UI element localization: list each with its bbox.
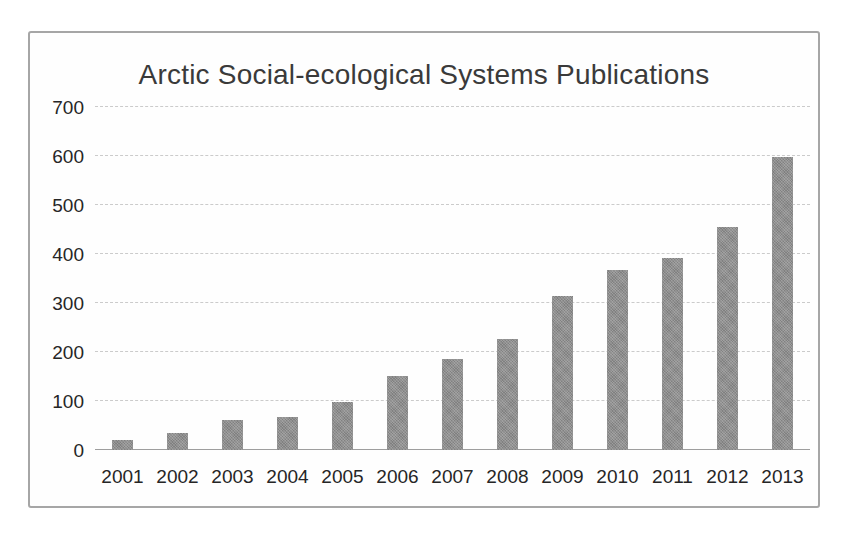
y-tick-label-500: 500 bbox=[30, 196, 84, 215]
x-tick-label-2009: 2009 bbox=[535, 450, 590, 486]
y-tick-label-200: 200 bbox=[30, 343, 84, 362]
x-tick-label-2013: 2013 bbox=[755, 450, 810, 486]
x-tick-label-2002: 2002 bbox=[150, 450, 205, 486]
x-tick-label-2003: 2003 bbox=[205, 450, 260, 486]
bar-cell-2004 bbox=[260, 107, 315, 450]
x-tick-label-2005: 2005 bbox=[315, 450, 370, 486]
x-tick-label-2010: 2010 bbox=[590, 450, 645, 486]
x-tick-label-2012: 2012 bbox=[700, 450, 755, 486]
bar-2013 bbox=[772, 157, 793, 450]
bar-cell-2010 bbox=[590, 107, 645, 450]
bar-cell-2005 bbox=[315, 107, 370, 450]
scanned-page: Arctic Social-ecological Systems Publica… bbox=[0, 0, 841, 542]
x-axis-tick-labels: 2001200220032004200520062007200820092010… bbox=[95, 450, 810, 486]
bar-2005 bbox=[332, 402, 353, 450]
bar-cell-2003 bbox=[205, 107, 260, 450]
y-tick-label-100: 100 bbox=[30, 392, 84, 411]
bar-2011 bbox=[662, 258, 683, 450]
x-tick-label-2004: 2004 bbox=[260, 450, 315, 486]
x-tick-label-2011: 2011 bbox=[645, 450, 700, 486]
bar-cell-2012 bbox=[700, 107, 755, 450]
bar-2008 bbox=[497, 339, 518, 450]
bar-cell-2006 bbox=[370, 107, 425, 450]
y-tick-label-300: 300 bbox=[30, 294, 84, 313]
bar-2009 bbox=[552, 296, 573, 450]
bar-2003 bbox=[222, 420, 243, 450]
chart-frame: Arctic Social-ecological Systems Publica… bbox=[28, 31, 820, 508]
bar-2010 bbox=[607, 270, 628, 450]
bar-2002 bbox=[167, 433, 188, 450]
x-tick-label-2007: 2007 bbox=[425, 450, 480, 486]
bar-cell-2013 bbox=[755, 107, 810, 450]
bar-cell-2008 bbox=[480, 107, 535, 450]
y-axis-tick-labels: 0100200300400500600700 bbox=[30, 107, 84, 450]
bar-cell-2001 bbox=[95, 107, 150, 450]
x-tick-label-2008: 2008 bbox=[480, 450, 535, 486]
y-tick-label-700: 700 bbox=[30, 98, 84, 117]
bar-cell-2002 bbox=[150, 107, 205, 450]
y-tick-label-600: 600 bbox=[30, 147, 84, 166]
bar-2007 bbox=[442, 359, 463, 450]
bar-2012 bbox=[717, 227, 738, 450]
bar-cell-2011 bbox=[645, 107, 700, 450]
bar-cell-2009 bbox=[535, 107, 590, 450]
bar-series bbox=[95, 107, 810, 450]
bar-cell-2007 bbox=[425, 107, 480, 450]
chart-title: Arctic Social-ecological Systems Publica… bbox=[30, 59, 818, 91]
plot-area bbox=[95, 107, 810, 450]
bar-2006 bbox=[387, 376, 408, 450]
x-tick-label-2006: 2006 bbox=[370, 450, 425, 486]
bar-2001 bbox=[112, 440, 133, 450]
y-tick-label-0: 0 bbox=[30, 441, 84, 460]
y-tick-label-400: 400 bbox=[30, 245, 84, 264]
x-tick-label-2001: 2001 bbox=[95, 450, 150, 486]
bar-2004 bbox=[277, 417, 298, 450]
